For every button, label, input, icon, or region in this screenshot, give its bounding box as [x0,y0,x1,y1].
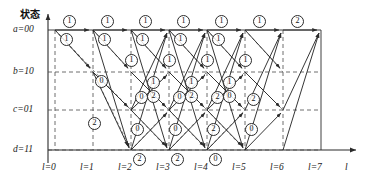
branch-metric: 1 [163,54,176,67]
state-label-d: d=11 [13,144,33,154]
stage-label-0: l=0 [42,162,56,172]
branch-metric: 0 [223,90,236,103]
stage-label-3: l=3 [156,162,170,172]
branch-metric: 0 [131,123,144,136]
axes [46,14,356,163]
branch-metric: 0 [135,91,148,104]
branch-metric: 1 [201,54,214,67]
branch-metric: 2 [147,90,160,103]
trellis-figure: 状态 l a=00 b=10 c=01 d=11 l=0 l=1 l=2 l=3… [0,0,371,191]
state-label-a: a=00 [13,24,34,34]
stage-label-4: l=4 [194,162,208,172]
branch-metric: 2 [211,91,224,104]
branch-metric: 1 [253,15,266,28]
state-label-b: b=10 [13,66,34,76]
branch-metric: 0 [95,75,108,88]
branch-metric: 1 [125,54,138,67]
branch-metric: 1 [136,33,149,46]
branch-metric: 1 [139,15,152,28]
branch-metric: 1 [147,76,160,89]
branch-metric: 1 [223,76,236,89]
branch-metric: 0 [173,91,186,104]
branch-metric: 1 [101,15,114,28]
stage-label-6: l=6 [270,162,284,172]
branch-metric: 1 [215,15,228,28]
branch-metric: 1 [185,76,198,89]
y-axis-title: 状态 [20,6,40,21]
branch-metric: 1 [63,15,76,28]
branch-metric: 2 [185,90,198,103]
branch-metric: 2 [171,153,184,166]
branch-metric: 1 [174,33,187,46]
branch-metric: 0 [169,123,182,136]
branch-metric: 2 [88,117,101,130]
stage-label-2: l=2 [118,162,132,172]
stage-label-5: l=5 [232,162,246,172]
branch-metric: 2 [247,93,260,106]
branch-metric: 1 [177,15,190,28]
x-axis-title: l [345,162,348,172]
branch-metric: 2 [207,123,220,136]
stage-label-7: l=7 [308,162,322,172]
stage-label-1: l=1 [80,162,94,172]
branch-metric: 0 [209,153,222,166]
branch-metric: 2 [133,153,146,166]
branch-metric: 1 [98,33,111,46]
survivor-branches [55,30,319,150]
branch-metric: 1 [60,33,73,46]
branch-metric: 2 [291,15,304,28]
state-label-c: c=01 [13,104,33,114]
branch-metric: 1 [212,33,225,46]
branch-metric: 1 [239,54,252,67]
branch-metric: 0 [245,123,258,136]
